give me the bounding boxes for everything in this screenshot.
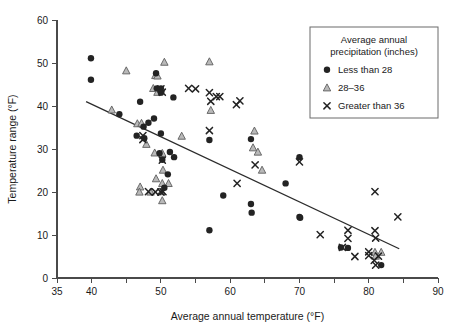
data-point-circle <box>159 157 165 163</box>
data-point-x <box>372 228 378 234</box>
data-point-circle <box>248 209 254 215</box>
data-point-x <box>217 93 223 99</box>
trend-line <box>86 102 399 249</box>
data-point-triangle <box>123 67 130 74</box>
data-point-circle <box>167 149 173 155</box>
x-tick-label: 40 <box>86 286 98 297</box>
data-point-x <box>234 180 240 186</box>
data-point-x <box>237 98 243 104</box>
data-point-circle <box>88 55 94 61</box>
data-point-x <box>372 188 378 194</box>
data-point-triangle <box>159 197 166 204</box>
data-point-circle <box>145 120 151 126</box>
data-point-circle <box>151 115 157 121</box>
legend-title-line2: precipitation (inches) <box>330 46 418 57</box>
data-point-circle <box>248 201 254 207</box>
data-point-circle <box>206 137 212 143</box>
data-point-circle <box>170 94 176 100</box>
data-point-circle <box>141 135 147 141</box>
data-point-x <box>345 235 351 241</box>
data-point-x <box>345 227 351 233</box>
y-tick-label: 60 <box>37 15 49 26</box>
data-point-triangle <box>207 106 214 113</box>
data-point-triangle <box>152 175 159 182</box>
legend-label-2: Greater than 36 <box>338 100 405 111</box>
y-axis-title: Temperature range (°F) <box>6 94 18 203</box>
data-point-circle <box>220 192 226 198</box>
legend-title-line1: Average annual <box>341 34 407 45</box>
legend-label-1: 28–36 <box>338 82 364 93</box>
x-tick-label: 80 <box>363 286 375 297</box>
data-point-circle <box>297 215 303 221</box>
data-point-x <box>373 262 379 268</box>
data-point-circle <box>171 154 177 160</box>
data-point-x <box>152 189 158 195</box>
data-point-triangle <box>258 166 265 173</box>
data-point-circle <box>88 77 94 83</box>
data-point-x <box>252 162 258 168</box>
data-point-circle <box>156 150 162 156</box>
x-tick-label: 90 <box>432 286 444 297</box>
data-point-circle <box>158 130 164 136</box>
data-point-circle <box>165 171 171 177</box>
x-tick-label: 70 <box>294 286 306 297</box>
data-point-circle <box>116 111 122 117</box>
data-point-x <box>186 85 192 91</box>
data-point-triangle <box>108 106 115 113</box>
x-tick-label: 50 <box>155 286 167 297</box>
chart-legend: Average annualprecipitation (inches)Less… <box>310 27 438 118</box>
data-point-circle <box>282 180 288 186</box>
data-point-circle <box>158 89 164 95</box>
y-tick-label: 40 <box>37 101 49 112</box>
data-point-circle <box>206 227 212 233</box>
y-tick-label: 30 <box>37 144 49 155</box>
chart-svg: 354050607080900102030405060 Average annu… <box>0 0 459 332</box>
legend-marker-circle <box>324 67 330 73</box>
y-tick-label: 50 <box>37 58 49 69</box>
data-point-x <box>192 86 198 92</box>
data-point-circle <box>338 244 344 250</box>
data-point-x <box>206 90 212 96</box>
data-point-x <box>395 214 401 220</box>
regression-line <box>86 102 399 249</box>
x-tick-label: 35 <box>51 286 63 297</box>
data-point-circle <box>296 154 302 160</box>
data-point-circle <box>248 136 254 142</box>
data-point-circle <box>133 132 139 138</box>
data-point-x <box>206 127 212 133</box>
data-point-triangle <box>251 127 258 134</box>
y-tick-label: 20 <box>37 187 49 198</box>
y-tick-label: 0 <box>42 273 48 284</box>
data-point-circle <box>161 185 167 191</box>
data-point-circle <box>345 245 351 251</box>
legend-label-0: Less than 28 <box>338 64 392 75</box>
data-point-triangle <box>161 58 168 65</box>
x-axis-title: Average annual temperature (°F) <box>171 310 324 322</box>
y-tick-label: 10 <box>37 230 49 241</box>
data-point-triangle <box>206 58 213 65</box>
data-point-triangle <box>249 144 256 151</box>
x-tick-label: 60 <box>225 286 237 297</box>
data-point-x <box>352 253 358 259</box>
data-point-circle <box>153 70 159 76</box>
data-point-x <box>317 231 323 237</box>
data-point-triangle <box>178 132 185 139</box>
scatter-chart-figure: 354050607080900102030405060 Average annu… <box>0 0 459 332</box>
data-point-circle <box>378 262 384 268</box>
data-point-circle <box>137 99 143 105</box>
